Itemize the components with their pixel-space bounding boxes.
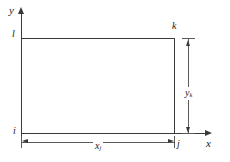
node-label-k: k — [172, 21, 176, 31]
vertical-dimension-extension-bottom — [182, 133, 195, 134]
horizontal-dimension-arrow-left — [22, 139, 28, 143]
node-label-l: l — [12, 29, 15, 39]
element-geometry-figure: y x l i k j yk xj — [0, 0, 230, 162]
horizontal-dimension-label: xj — [93, 141, 103, 152]
horizontal-dimension-symbol: x — [95, 140, 99, 151]
horizontal-dimension-subscript: j — [100, 144, 102, 151]
element-bottom-edge — [21, 133, 175, 134]
horizontal-dimension-extension-right — [174, 136, 175, 148]
node-label-j: j — [177, 139, 180, 149]
y-axis-label: y — [9, 5, 14, 16]
vertical-dimension-line — [188, 39, 189, 133]
element-top-edge — [21, 38, 175, 39]
element-right-edge — [174, 38, 175, 133]
horizontal-dimension-extension-left — [21, 136, 22, 148]
vertical-dimension-arrow-top — [186, 40, 190, 46]
x-axis-arrowhead — [205, 130, 212, 136]
element-left-edge — [21, 38, 22, 133]
vertical-dimension-extension-top — [182, 38, 195, 39]
vertical-dimension-subscript: k — [190, 91, 193, 98]
vertical-dimension-label: yk — [184, 87, 193, 100]
x-axis-label: x — [206, 138, 211, 149]
vertical-dimension-symbol: y — [185, 87, 189, 98]
y-axis-arrowhead — [18, 7, 24, 14]
node-label-i: i — [13, 126, 16, 136]
